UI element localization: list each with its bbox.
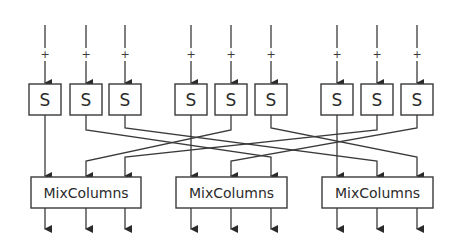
sbox: S — [401, 84, 433, 115]
mixcolumns-label: MixColumns — [335, 185, 420, 201]
input-wires: +++++++++ — [40, 25, 421, 83]
sbox: S — [321, 84, 353, 115]
xor-marker: + — [40, 48, 49, 61]
xor-marker: + — [332, 48, 341, 61]
diagram-canvas: +++++++++ SSSSSSSSS MixColumnsMixColumns… — [0, 0, 454, 241]
sbox: S — [29, 84, 61, 115]
mixcolumns-row: MixColumnsMixColumnsMixColumns — [31, 177, 433, 208]
sbox-label: S — [120, 90, 131, 110]
sbox-label: S — [186, 90, 197, 110]
mixcolumns-label: MixColumns — [189, 185, 274, 201]
sbox: S — [70, 84, 102, 115]
sbox: S — [361, 84, 393, 115]
sbox-label: S — [226, 90, 237, 110]
sbox-label: S — [372, 90, 383, 110]
xor-marker: + — [412, 48, 421, 61]
mixcolumns-label: MixColumns — [43, 185, 128, 201]
sbox-label: S — [81, 90, 92, 110]
sbox-label: S — [412, 90, 423, 110]
sbox: S — [175, 84, 207, 115]
sbox-label: S — [266, 90, 277, 110]
xor-marker: + — [266, 48, 275, 61]
routing-wire — [271, 115, 417, 176]
routing-wire — [125, 115, 377, 176]
sbox: S — [109, 84, 141, 115]
mixcolumns-block: MixColumns — [176, 177, 287, 208]
routing-wire — [125, 115, 377, 176]
output-wires — [45, 208, 417, 229]
sbox-row: SSSSSSSSS — [29, 84, 433, 115]
xor-marker: + — [81, 48, 90, 61]
sbox: S — [215, 84, 247, 115]
routing-wire — [86, 115, 231, 176]
mixcolumns-block: MixColumns — [31, 177, 141, 208]
mixcolumns-block: MixColumns — [322, 177, 433, 208]
xor-marker: + — [372, 48, 381, 61]
xor-marker: + — [120, 48, 129, 61]
sbox-label: S — [40, 90, 51, 110]
xor-marker: + — [186, 48, 195, 61]
xor-marker: + — [226, 48, 235, 61]
shiftrows-routing — [45, 115, 417, 176]
sbox-label: S — [332, 90, 343, 110]
sbox: S — [255, 84, 287, 115]
routing-wire — [86, 115, 271, 176]
